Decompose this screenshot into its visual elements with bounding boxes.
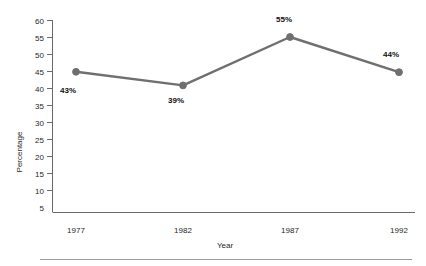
y-tick-label: 60 (35, 17, 44, 26)
y-tick-label: 55 (35, 34, 44, 43)
x-tick-label: 1987 (281, 226, 299, 235)
y-tick-labels: 60 55 50 45 40 35 30 25 20 15 10 5 (35, 17, 44, 213)
x-tick-labels: 1977 1982 1987 1992 (67, 226, 408, 235)
data-point-1982[interactable] (180, 82, 187, 89)
y-tick-label: 50 (35, 51, 44, 60)
y-tick-label: 25 (35, 136, 44, 145)
data-label-1987: 55% (276, 15, 292, 24)
y-tick-label: 10 (35, 187, 44, 196)
y-tick-label: 20 (35, 153, 44, 162)
y-tick-label: 15 (35, 170, 44, 179)
data-point-1977[interactable] (73, 68, 80, 75)
data-label-1977: 43% (60, 86, 76, 95)
x-tick-label: 1977 (67, 226, 85, 235)
y-axis-title: Percentage (15, 131, 24, 172)
y-tick-marks (47, 21, 53, 191)
y-tick-label: 5 (40, 204, 45, 213)
data-point-labels: 43% 39% 55% 44% (60, 15, 399, 105)
chart-figure: 60 55 50 45 40 35 30 25 20 15 10 5 Perce… (0, 0, 426, 266)
data-point-1992[interactable] (396, 69, 403, 76)
y-tick-label: 35 (35, 102, 44, 111)
series-line-percentage (76, 37, 399, 85)
data-point-1987[interactable] (287, 34, 294, 41)
x-axis-title: Year (217, 241, 234, 250)
line-chart-canvas: 60 55 50 45 40 35 30 25 20 15 10 5 Perce… (0, 0, 426, 266)
y-tick-label: 45 (35, 68, 44, 77)
data-label-1992: 44% (383, 50, 399, 59)
y-tick-label: 30 (35, 119, 44, 128)
x-tick-label: 1992 (390, 226, 408, 235)
data-label-1982: 39% (168, 96, 184, 105)
y-tick-label: 40 (35, 85, 44, 94)
x-tick-label: 1982 (174, 226, 192, 235)
